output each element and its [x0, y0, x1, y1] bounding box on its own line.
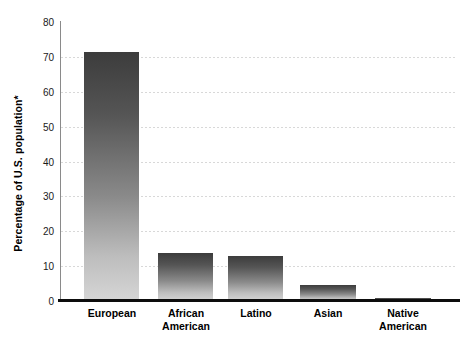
- x-label-european: European: [76, 307, 148, 320]
- x-label-native-american: Native American: [367, 307, 439, 333]
- x-axis-line: [58, 299, 460, 302]
- x-label-latino: Latino: [220, 307, 292, 320]
- bar-european: [84, 52, 139, 301]
- bars-layer: [0, 0, 468, 301]
- x-label-african-american: African American: [150, 307, 222, 333]
- bar-latino: [228, 256, 283, 301]
- bar-african-american: [158, 253, 213, 301]
- bar-chart: Percentage of U.S. population* 80 70 60 …: [0, 0, 468, 347]
- x-label-asian: Asian: [292, 307, 364, 320]
